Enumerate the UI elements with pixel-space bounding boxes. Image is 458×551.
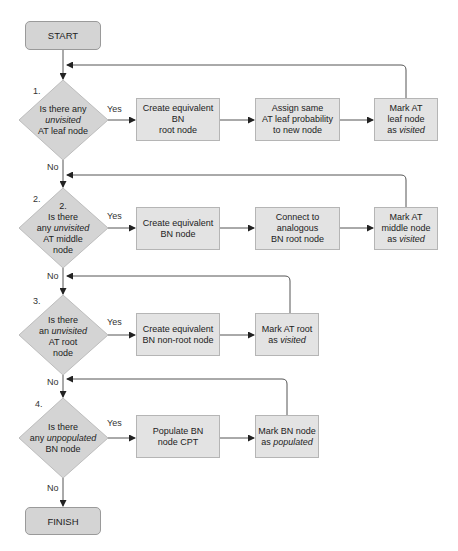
action-create-bn-node: Create equivalentBN node — [136, 207, 220, 250]
no-label-1: No — [47, 162, 59, 172]
yes-label-4: Yes — [107, 418, 122, 428]
connector-lines — [0, 0, 458, 551]
action-assign-probability: Assign sameAT leaf probabilityto new nod… — [255, 98, 340, 141]
no-label-3: No — [47, 377, 59, 387]
yes-label-1: Yes — [107, 104, 122, 114]
step-1-number: 1. — [33, 86, 41, 96]
action-mark-populated: Mark BN nodeas populated — [255, 415, 319, 458]
decision-3: Is there an unvisited AT root node — [39, 315, 87, 359]
step-4-number: 4. — [35, 399, 43, 409]
no-label-4: No — [47, 483, 59, 493]
yes-label-3: Yes — [107, 317, 122, 327]
finish-terminal: FINISH — [25, 507, 101, 535]
action-connect-root: Connect toanalogousBN root node — [255, 207, 340, 250]
decision-4: Is there any unpopulated BN node — [30, 422, 97, 455]
step-3-number: 3. — [33, 296, 41, 306]
action-create-bn-nonroot: Create equivalentBN non-root node — [136, 313, 220, 356]
start-terminal: START — [25, 21, 101, 50]
start-label: START — [48, 30, 78, 41]
no-label-2: No — [47, 271, 59, 281]
finish-label: FINISH — [47, 516, 78, 527]
action-create-bn-root: Create equivalent BNroot node — [136, 98, 220, 141]
action-mark-leaf-visited: Mark ATleaf nodeas visited — [374, 98, 438, 141]
yes-label-2: Yes — [107, 211, 122, 221]
action-mark-middle-visited: Mark ATmiddle nodeas visited — [374, 207, 438, 250]
action-populate-cpt: Populate BNnode CPT — [136, 415, 220, 458]
action-mark-root-visited: Mark AT rootas visited — [255, 313, 319, 356]
decision-1: Is there any unvisited AT leaf node — [38, 104, 88, 137]
decision-2: 2. Is there any unvisited AT middle node — [37, 201, 90, 256]
